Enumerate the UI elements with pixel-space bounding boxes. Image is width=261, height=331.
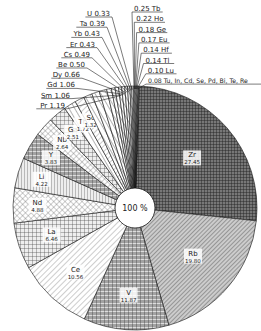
slice-label: Nd <box>33 199 43 207</box>
slice-value: 4.88 <box>31 207 44 213</box>
slice-label: Rb <box>188 250 198 258</box>
slice-value: 4.22 <box>35 181 47 187</box>
slice-value: 2.64 <box>56 144 69 150</box>
slice-value: 3.83 <box>45 159 58 165</box>
pie-chart: Zr27.45Rb19.80V11.87Ce10.56La6.46Nd4.88L… <box>0 0 261 331</box>
slice-label: V <box>126 289 131 297</box>
center-label: 100 % <box>122 204 148 213</box>
slice-value: 1.32 <box>84 122 96 128</box>
pie-svg: Zr27.45Rb19.80V11.87Ce10.56La6.46Nd4.88L… <box>0 0 261 331</box>
slice-label: Y <box>48 151 54 159</box>
slice-value: 10.56 <box>68 274 84 280</box>
slice-value: 6.46 <box>45 236 58 242</box>
slice-value: 2.51 <box>67 134 79 140</box>
slice-label: Zr <box>188 151 196 159</box>
slice-label: Ce <box>71 266 80 274</box>
slice-label: La <box>47 228 55 236</box>
callout-label: 0.08 Tu, In, Cd, Se, Pd, Bi, Te, Re <box>148 77 248 84</box>
slice-value: 27.45 <box>184 159 200 165</box>
slice-label: Li <box>39 173 45 181</box>
slice-value: 11.87 <box>121 297 137 303</box>
slice-value: 19.80 <box>185 258 201 264</box>
